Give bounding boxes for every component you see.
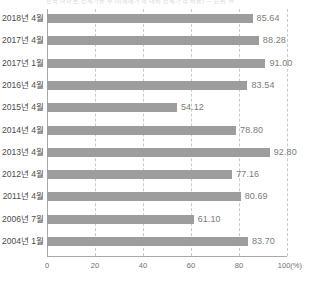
x-tick-60: 60 [187,261,195,271]
category-label: 2018년 4월 [2,13,44,24]
bar-value-label: 54.12 [181,101,204,113]
x-axis-line [47,256,287,257]
bar-value-label: 85.64 [257,12,280,24]
x-tick-40: 40 [139,261,147,271]
bar [47,81,247,90]
bar-row: 2014년 4월78.80 [0,121,313,143]
bar [47,170,232,179]
bar-value-label: 88.28 [263,34,286,46]
bar-value-label: 80.69 [245,190,268,202]
plot-area: 2018년 4월85.642017년 4월88.282017년 1월91.002… [0,9,313,259]
header-caption-text: 전국 아파트 전세가율 추이(매매가격 대비 전세가격 비율) — 단위 % [46,0,308,5]
category-label: 2016년 4월 [2,80,44,91]
bar [47,103,177,112]
bar-row: 2013년 4월92.80 [0,143,313,165]
category-label: 2017년 1월 [2,58,44,69]
bar-chart-figure: 전국 아파트 전세가율 추이(매매가격 대비 전세가격 비율) — 단위 % 2… [0,0,313,282]
clipped-header-caption: 전국 아파트 전세가율 추이(매매가격 대비 전세가격 비율) — 단위 % [46,0,308,7]
x-tick-20: 20 [91,261,99,271]
bar [47,148,270,157]
bar-row: 2004년 1월83.70 [0,232,313,254]
bar-row: 2016년 4월83.54 [0,76,313,98]
bar [47,237,248,246]
bar [47,36,259,45]
x-tick-100: 100(%) [278,261,302,271]
bar-value-label: 91.00 [269,57,292,69]
bar-row: 2018년 4월85.64 [0,9,313,31]
category-label: 2012년 4월 [2,169,44,180]
category-label: 2011년 4월 [3,191,44,202]
category-label: 2004년 1월 [2,236,44,247]
category-label: 2015년 4월 [2,102,44,113]
bar-value-label: 77.16 [236,168,259,180]
bar-row: 2015년 4월54.12 [0,98,313,120]
bar [47,215,194,224]
bar-value-label: 92.80 [274,146,297,158]
bar-value-label: 83.54 [251,79,274,91]
bar-row: 2012년 4월77.16 [0,165,313,187]
bar [47,192,241,201]
bar [47,14,253,23]
bar-row: 2017년 4월88.28 [0,31,313,53]
category-label: 2006년 7월 [2,214,44,225]
bar-value-label: 78.80 [240,124,263,136]
bar-value-label: 61.10 [198,213,221,225]
category-label: 2014년 4월 [2,125,44,136]
category-label: 2013년 4월 [2,147,44,158]
bar-row: 2017년 1월91.00 [0,54,313,76]
bar [47,59,265,68]
bar [47,126,236,135]
bar-row: 2011년 4월80.69 [0,187,313,209]
category-label: 2017년 4월 [2,35,44,46]
x-tick-80: 80 [235,261,243,271]
bar-row: 2006년 7월61.10 [0,210,313,232]
bar-value-label: 83.70 [252,235,275,247]
x-tick-0: 0 [45,261,49,271]
